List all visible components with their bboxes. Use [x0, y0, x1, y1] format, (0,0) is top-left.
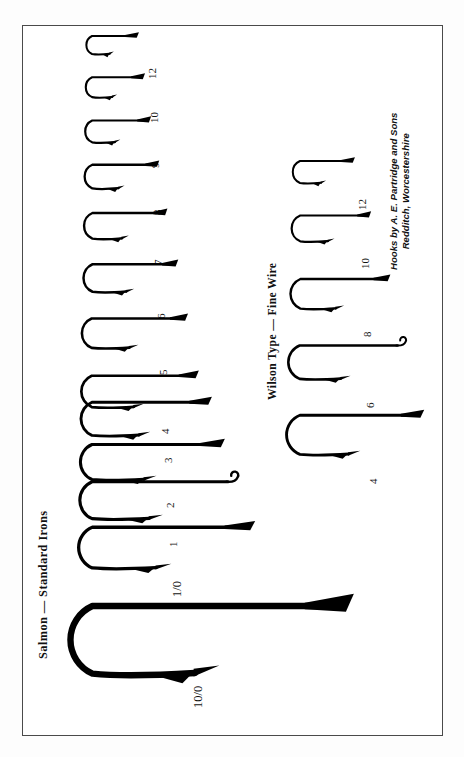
hook-salmon-5 [69, 308, 202, 367]
hook-salmon-1-0 [63, 515, 268, 590]
hook-salmon-12 [76, 27, 152, 71]
hook-wilson-10 [280, 206, 385, 259]
hook-salmon-8 [73, 155, 174, 207]
hook-size-label-wilson-4: 4 [367, 479, 379, 485]
hook-size-label-salmon-10-0: 10/0 [191, 686, 206, 708]
hook-salmon-7 [72, 203, 182, 257]
hook-wilson-6 [275, 335, 418, 398]
hook-salmon-6 [71, 254, 193, 311]
hook-salmon-10-0 [45, 586, 372, 706]
credit-line-1: Hooks by A. E. Partridge and Sons [388, 113, 400, 270]
manufacturer-credit: Hooks by A. E. Partridge and Sons Reddit… [388, 113, 411, 270]
hook-wilson-4 [272, 404, 438, 475]
hook-salmon-10 [75, 68, 159, 115]
credit-line-2: Redditch, Worcestershire [400, 113, 412, 270]
illustration-plate: Salmon — Standard Irons Wilson Type — Fi… [0, 0, 464, 757]
hook-salmon-9 [74, 111, 165, 160]
hook-size-label-wilson-10: 10 [359, 258, 371, 269]
hook-wilson-12 [282, 152, 368, 200]
hook-wilson-8 [278, 269, 404, 327]
